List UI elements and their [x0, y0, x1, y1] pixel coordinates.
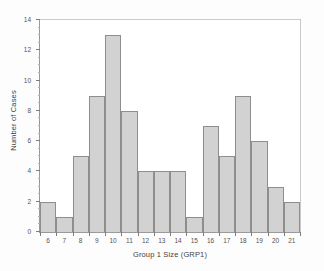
x-axis-tick: [284, 232, 285, 236]
y-axis-major-tick: 12: [36, 49, 40, 50]
x-axis-tick-label: 9: [95, 237, 99, 244]
y-axis-major-tick: 4: [36, 170, 40, 171]
x-axis-tick-label: 17: [223, 237, 230, 244]
histogram-bar-slot: [105, 20, 121, 232]
x-axis-tick-label: 18: [240, 237, 247, 244]
y-axis-minor-tick: [38, 27, 41, 28]
x-axis-tick: [56, 232, 57, 236]
histogram-bar-slot: [186, 20, 202, 232]
x-axis-tick-label: 21: [288, 237, 295, 244]
histogram-bar-slot: [235, 20, 251, 232]
x-axis-tick: [203, 232, 204, 236]
x-axis-title-label: Group 1 Size (GRP1): [133, 250, 207, 259]
x-axis-tick-label: 14: [175, 237, 182, 244]
histogram-bar: [219, 156, 235, 232]
y-axis-minor-tick: [38, 133, 41, 134]
histogram-bar: [203, 126, 219, 232]
x-axis-tick-label: 20: [272, 237, 279, 244]
x-axis-tick: [73, 232, 74, 236]
x-axis-tick: [251, 232, 252, 236]
histogram-bar-slot: [121, 20, 137, 232]
x-axis-tick-label: 15: [191, 237, 198, 244]
bars-layer: [40, 20, 300, 232]
y-axis-minor-tick: [38, 155, 41, 156]
x-axis-tick: [89, 232, 90, 236]
histogram-bar: [73, 156, 89, 232]
histogram-bar-slot: [284, 20, 300, 232]
y-axis-major-tick: 14: [36, 19, 40, 20]
histogram-bar: [170, 171, 186, 232]
y-axis-major-tick: 8: [36, 110, 40, 111]
histogram-bar-slot: [170, 20, 186, 232]
y-axis-minor-tick: [38, 64, 41, 65]
histogram-bar: [235, 96, 251, 232]
histogram-chart: Number of Cases 02468101214 678910111213…: [0, 0, 324, 271]
x-axis-tick-label: 7: [63, 237, 67, 244]
x-axis-tick: [105, 232, 106, 236]
y-axis-tick-label: 4: [27, 167, 31, 174]
histogram-bar-slot: [89, 20, 105, 232]
y-axis-minor-tick: [38, 87, 41, 88]
y-axis-minor-tick: [38, 163, 41, 164]
histogram-bar-slot: [154, 20, 170, 232]
histogram-bar: [284, 202, 300, 232]
histogram-bar-slot: [73, 20, 89, 232]
y-axis-tick-label: 0: [27, 228, 31, 235]
y-axis-minor-tick: [38, 102, 41, 103]
x-axis-tick: [219, 232, 220, 236]
y-axis-minor-tick: [38, 34, 41, 35]
histogram-bar: [268, 187, 284, 232]
histogram-bar-slot: [203, 20, 219, 232]
y-axis-title-label: Number of Cases: [9, 90, 18, 151]
x-axis-tick-label: 10: [110, 237, 117, 244]
x-axis-tick: [154, 232, 155, 236]
histogram-bar-slot: [268, 20, 284, 232]
histogram-bar: [186, 217, 202, 232]
y-axis-minor-tick: [38, 178, 41, 179]
y-axis-minor-tick: [38, 57, 41, 58]
histogram-bar: [121, 111, 137, 232]
histogram-bar: [89, 96, 105, 232]
x-axis-tick: [40, 232, 41, 236]
y-axis-minor-tick: [38, 125, 41, 126]
y-axis-tick-label: 8: [27, 107, 31, 114]
y-axis-minor-tick: [38, 95, 41, 96]
x-axis-tick-label: 19: [256, 237, 263, 244]
y-axis-minor-tick: [38, 72, 41, 73]
y-axis-minor-tick: [38, 186, 41, 187]
y-axis-title: Number of Cases: [2, 0, 24, 240]
x-axis-tick-label: 11: [126, 237, 133, 244]
y-axis-minor-tick: [38, 223, 41, 224]
histogram-bar-slot: [138, 20, 154, 232]
y-axis-tick-label: 10: [24, 77, 31, 84]
x-axis-title: Group 1 Size (GRP1): [39, 250, 301, 259]
histogram-bar-slot: [251, 20, 267, 232]
x-axis-tick-label: 13: [158, 237, 165, 244]
x-axis-tick: [268, 232, 269, 236]
histogram-bar-slot: [56, 20, 72, 232]
x-axis-tick-label: 16: [207, 237, 214, 244]
plot-area: 02468101214 6789101112131415161718192021: [39, 19, 301, 233]
y-axis-tick-label: 12: [24, 46, 31, 53]
y-axis-minor-tick: [38, 216, 41, 217]
histogram-bar: [138, 171, 154, 232]
x-axis-tick: [235, 232, 236, 236]
y-axis-minor-tick: [38, 193, 41, 194]
x-axis-tick-label: 12: [142, 237, 149, 244]
y-axis-tick-label: 14: [24, 16, 31, 23]
x-axis-tick: [138, 232, 139, 236]
y-axis-tick-label: 2: [27, 198, 31, 205]
histogram-bar: [56, 217, 72, 232]
x-axis-tick-label: 8: [79, 237, 83, 244]
histogram-bar: [251, 141, 267, 232]
histogram-bar-slot: [219, 20, 235, 232]
y-axis-minor-tick: [38, 208, 41, 209]
x-axis-tick: [300, 232, 301, 236]
y-axis-tick-label: 6: [27, 137, 31, 144]
histogram-bar: [105, 35, 121, 232]
x-axis-tick: [170, 232, 171, 236]
y-axis-minor-tick: [38, 148, 41, 149]
histogram-bar: [154, 171, 170, 232]
x-axis-tick: [121, 232, 122, 236]
y-axis-major-tick: 2: [36, 201, 40, 202]
